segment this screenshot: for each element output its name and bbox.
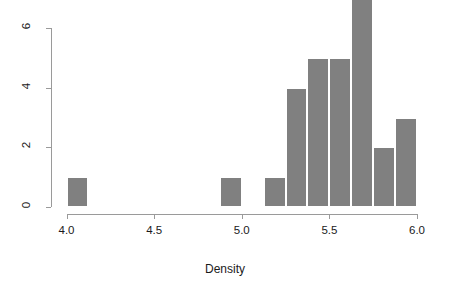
y-axis-tick <box>46 207 51 208</box>
y-axis-tick <box>46 147 51 148</box>
histogram-bar <box>67 177 89 207</box>
x-axis-tick <box>67 214 68 219</box>
histogram-bar <box>395 118 417 208</box>
x-axis-tick-label: 6.0 <box>392 224 442 236</box>
x-axis-tick-label: 4.5 <box>129 224 179 236</box>
histogram-bar <box>307 58 329 207</box>
x-axis-label: Density <box>0 262 450 276</box>
histogram-plot: 02464.04.55.05.56.0Density <box>0 0 450 296</box>
x-axis-tick <box>242 214 243 219</box>
y-axis-tick <box>46 28 51 29</box>
y-axis-tick-label: 4 <box>20 74 32 98</box>
x-axis-tick <box>329 214 330 219</box>
histogram-bar <box>351 0 373 207</box>
y-axis-tick-label: 2 <box>20 133 32 157</box>
y-axis-tick-label: 0 <box>20 193 32 217</box>
x-axis-tick-label: 4.0 <box>42 224 92 236</box>
x-axis-tick-label: 5.5 <box>304 224 354 236</box>
x-axis-tick <box>154 214 155 219</box>
y-axis-line <box>51 28 52 207</box>
histogram-bar <box>286 88 308 207</box>
x-axis-tick-label: 5.0 <box>217 224 267 236</box>
histogram-bar <box>220 177 242 207</box>
plot-panel: 02464.04.55.05.56.0Density <box>0 0 450 296</box>
x-axis-tick <box>417 214 418 219</box>
histogram-bar <box>373 147 395 207</box>
histogram-bar <box>329 58 351 207</box>
histogram-bar <box>264 177 286 207</box>
y-axis-tick-label: 6 <box>20 14 32 38</box>
y-axis-tick <box>46 88 51 89</box>
